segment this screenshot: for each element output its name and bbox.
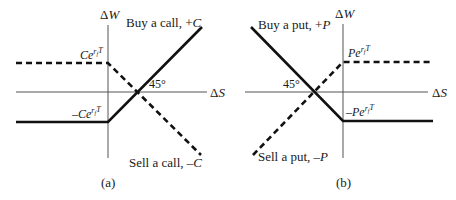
panel-a: ΔW ΔS Buy a call, +C Sell a call, –C 45°… bbox=[16, 7, 225, 190]
x-axis-label: ΔS bbox=[432, 85, 447, 100]
sell-call-label: Sell a call, –C bbox=[129, 155, 202, 170]
x-axis-label: ΔS bbox=[210, 85, 225, 100]
angle-label: 45° bbox=[149, 77, 166, 91]
y-axis-label: ΔW bbox=[335, 6, 355, 21]
angle-label: 45° bbox=[283, 77, 300, 91]
sell-put-label: Sell a put, –P bbox=[258, 149, 328, 164]
buy-call-line bbox=[16, 27, 202, 122]
panel-caption: (b) bbox=[336, 175, 351, 190]
buy-put-line bbox=[251, 27, 433, 121]
buy-put-label: Buy a put, +P bbox=[258, 17, 330, 32]
buy-call-label: Buy a call, +C bbox=[126, 15, 202, 30]
upper-level-label: CerfT bbox=[80, 46, 103, 62]
panel-caption: (a) bbox=[101, 175, 115, 190]
panel-b: ΔW ΔS Buy a put, +P Sell a put, –P 45° P… bbox=[245, 6, 447, 190]
upper-level-label: PerfT bbox=[347, 44, 370, 60]
lower-level-label: –PerfT bbox=[345, 103, 374, 119]
lower-level-label: –CerfT bbox=[71, 105, 101, 121]
y-axis-label: ΔW bbox=[100, 7, 120, 22]
option-payoff-diagram: ΔW ΔS Buy a call, +C Sell a call, –C 45°… bbox=[0, 0, 456, 200]
